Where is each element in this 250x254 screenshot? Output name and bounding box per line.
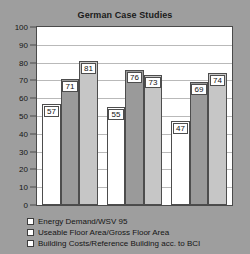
legend-item[interactable]: Building Costs/Reference Building acc. t… xyxy=(27,238,233,249)
bar-value-label: 81 xyxy=(81,63,97,74)
y-axis-tick-label: 100 xyxy=(15,23,28,32)
legend-checkbox-icon[interactable] xyxy=(27,229,34,236)
bars-layer: 577181557673476974 xyxy=(37,27,232,205)
y-axis-tick-label: 60 xyxy=(19,94,28,103)
y-axis-tick-label: 70 xyxy=(19,76,28,85)
y-axis-tick-label: 90 xyxy=(19,40,28,49)
bar-value-label: 76 xyxy=(127,72,143,83)
bar-value-label: 47 xyxy=(173,123,189,134)
y-axis-tick-label: 50 xyxy=(19,112,28,121)
bar xyxy=(144,75,163,205)
y-axis-tick-label: 40 xyxy=(19,129,28,138)
legend-item-label: Useable Floor Area/Gross Floor Area xyxy=(38,228,169,238)
bar xyxy=(107,107,126,205)
legend-checkbox-icon[interactable] xyxy=(27,218,34,225)
y-axis-tick-label: 80 xyxy=(19,58,28,67)
legend-item[interactable]: Energy Demand/WSV 95 xyxy=(27,216,233,227)
chart-container: German Case Studies 01020304050607080901… xyxy=(0,0,250,254)
y-axis: 0102030405060708090100 xyxy=(0,26,36,206)
bar-value-label: 69 xyxy=(191,84,207,95)
bar xyxy=(61,79,80,205)
legend-item[interactable]: Useable Floor Area/Gross Floor Area xyxy=(27,227,233,238)
bar-value-label: 73 xyxy=(145,77,161,88)
legend-item-label: Building Costs/Reference Building acc. t… xyxy=(38,239,200,249)
chart-title: German Case Studies xyxy=(0,10,250,20)
y-axis-tick-label: 30 xyxy=(19,147,28,156)
bar xyxy=(79,61,98,205)
bar-value-label: 55 xyxy=(108,109,124,120)
chart-legend: Energy Demand/WSV 95Useable Floor Area/G… xyxy=(27,216,233,250)
y-axis-tick-label: 10 xyxy=(19,183,28,192)
y-axis-tick-label: 0 xyxy=(24,201,28,210)
bar xyxy=(125,70,144,205)
bar xyxy=(42,104,61,205)
bar xyxy=(208,73,227,205)
bar xyxy=(190,82,209,205)
y-axis-tick-label: 20 xyxy=(19,165,28,174)
bar-value-label: 74 xyxy=(210,75,226,86)
legend-checkbox-icon[interactable] xyxy=(27,240,34,247)
bar-value-label: 57 xyxy=(44,106,60,117)
bar-value-label: 71 xyxy=(62,81,78,92)
legend-item-label: Energy Demand/WSV 95 xyxy=(38,217,127,227)
